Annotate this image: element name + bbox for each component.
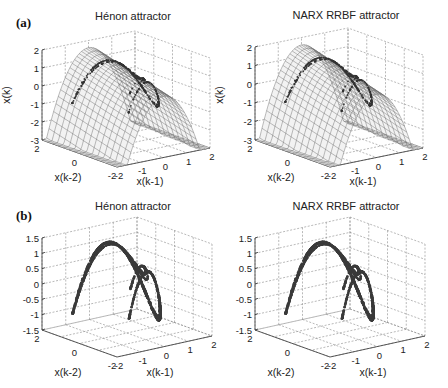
trajectory-point [343,305,346,308]
trajectory-point [159,316,162,319]
trajectory-point [332,245,335,248]
gridline [42,278,212,305]
trajectory-point [362,80,364,82]
trajectory-point [299,270,302,273]
x-tick-label: 1 [401,344,406,355]
y-tick-label: 0 [285,157,290,168]
trajectory-point [151,101,153,103]
trajectory-point [92,69,94,71]
trajectory-point [310,247,313,250]
gridline [293,323,388,344]
trajectory-point [352,271,355,274]
trajectory-point [82,83,84,85]
trajectory-point [79,88,81,90]
trajectory-point [371,96,373,98]
trajectory-point [342,90,344,92]
trajectory-point [134,83,136,85]
trajectory-point [349,89,351,91]
trajectory-point [142,87,144,89]
trajectory-point [159,310,162,313]
z-tick-label: 0.5 [26,263,39,274]
trajectory-point [130,305,133,308]
trajectory-point [140,276,143,279]
trajectory-point [73,307,76,310]
trajectory-point [286,307,289,310]
gridline [255,217,425,244]
trajectory-point [156,93,158,95]
y-axis-label: x(k-2) [268,171,295,183]
trajectory-point [89,260,92,263]
trajectory-point [158,104,160,106]
trajectory-point [346,294,349,297]
trajectory-point [296,78,298,80]
trajectory-point [304,257,307,260]
subplot-title: Hénon attractor [95,200,171,212]
z-tick [255,102,258,103]
trajectory-point [356,266,359,269]
z-tick [42,67,45,68]
x-tick-label: 2 [424,339,429,350]
trajectory-point [286,304,289,307]
trajectory-point [370,319,373,322]
trajectory-point [356,80,358,82]
x-tick-label: 1 [188,344,193,355]
trajectory-point [157,294,160,297]
panel-label: (a) [16,15,31,30]
z-tick-label: 1 [34,248,39,259]
trajectory-point [150,307,153,310]
trajectory-point [334,61,336,63]
trajectory-point [347,80,349,82]
trajectory-point [147,94,149,96]
trajectory-point [346,265,349,268]
x-axis-label: x(k-1) [360,366,387,378]
trajectory-point [360,270,363,273]
trajectory-point [83,274,86,277]
trajectory-point [351,75,353,77]
gridline [113,314,188,341]
trajectory-point [145,278,148,281]
trajectory-point [94,251,97,254]
trajectory-point [81,283,84,286]
trajectory-point [136,272,139,275]
trajectory-point [139,271,142,274]
trajectory-point [141,86,143,88]
trajectory-point [307,254,310,257]
x-tick-label: 2 [422,151,427,162]
trajectory-point [129,109,131,111]
z-tick [255,329,258,330]
trajectory-point [302,260,305,263]
trajectory-point [359,297,362,300]
trajectory-point [131,88,133,90]
trajectory-point [153,278,156,281]
trajectory-point [81,85,83,87]
trajectory-point [110,59,112,61]
trajectory-point [155,284,158,287]
trajectory-point [136,75,138,77]
trajectory-point [115,242,118,245]
trajectory-point [329,59,331,61]
trajectory-point [91,71,93,73]
y-tick-label: 2 [247,333,252,344]
trajectory [71,241,161,322]
y-tick-label: 0 [72,347,77,358]
trajectory-point [369,105,371,107]
trajectory-point [368,89,370,91]
gridline [61,316,156,337]
z-tick [255,65,258,66]
x-axis-label: x(k-1) [147,366,174,378]
trajectory-point [158,98,160,100]
x-tick-label: -1 [139,355,147,366]
trajectory-point [158,300,161,303]
z-tick-label: -0.5 [236,294,252,305]
z-tick [42,298,45,299]
trajectory-point [372,313,375,316]
trajectory-point [358,278,361,281]
trajectory-point [311,60,313,62]
trajectory-point [295,280,298,283]
trajectory-point [94,254,97,257]
trajectory-point [130,285,133,288]
trajectory-point [371,300,374,303]
subplot-1: 210-1-2-3-2-101220-2NARX RRBF attractorx… [213,9,428,187]
trajectory-point [132,298,135,301]
trajectory-point [116,61,118,63]
